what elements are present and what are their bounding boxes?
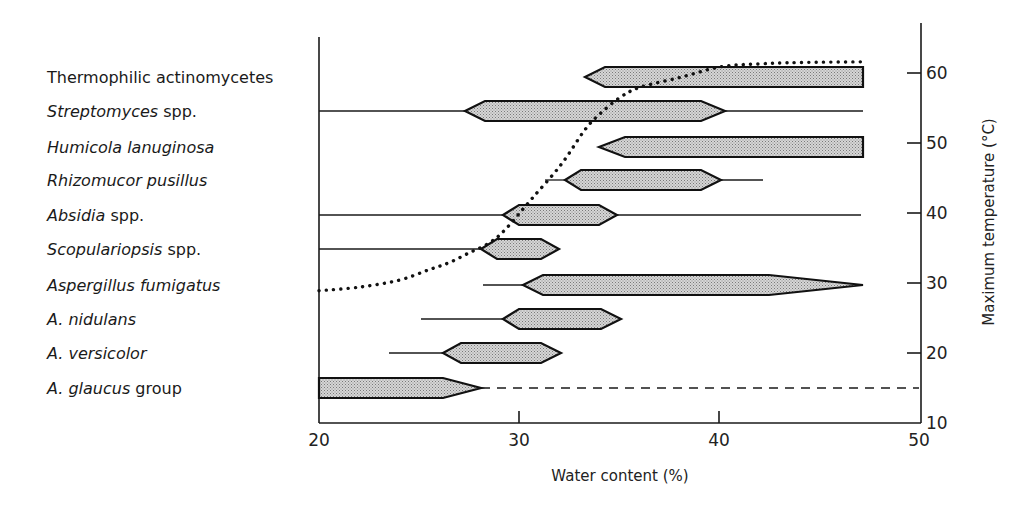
y-tick-label: 60 bbox=[926, 63, 948, 83]
category-label: A. versicolor bbox=[46, 344, 148, 363]
category-label: Absidia spp. bbox=[46, 206, 144, 225]
range-bar bbox=[523, 275, 863, 295]
category-label: A. glaucus group bbox=[46, 379, 182, 398]
y-tick-label: 10 bbox=[926, 413, 948, 433]
range-row bbox=[545, 170, 763, 190]
category-label: Rhizomucor pusillus bbox=[47, 171, 207, 190]
category-label: A. nidulans bbox=[46, 310, 136, 329]
category-label: Thermophilic actinomycetes bbox=[46, 68, 273, 87]
range-row bbox=[421, 309, 621, 329]
range-row bbox=[319, 101, 863, 121]
range-row bbox=[483, 275, 863, 295]
range-bar bbox=[599, 137, 863, 157]
range-row bbox=[319, 239, 559, 259]
range-row bbox=[319, 378, 919, 398]
range-bar bbox=[443, 343, 561, 363]
range-row bbox=[599, 137, 863, 157]
x-tick-label: 20 bbox=[308, 430, 330, 450]
category-labels: Thermophilic actinomycetesStreptomyces s… bbox=[46, 68, 273, 398]
x-tick-label: 30 bbox=[508, 430, 530, 450]
category-label: Scopulariopsis spp. bbox=[47, 240, 201, 259]
range-bar bbox=[503, 309, 621, 329]
y-tick-label: 30 bbox=[926, 273, 948, 293]
range-row bbox=[585, 67, 863, 87]
chart: 20304050 102030405060 Water content (%) … bbox=[0, 0, 1026, 511]
x-tick-label: 50 bbox=[908, 430, 930, 450]
y-tick-label: 50 bbox=[926, 133, 948, 153]
y-axis-ticks: 102030405060 bbox=[907, 63, 948, 433]
y-tick-label: 20 bbox=[926, 343, 948, 363]
category-label: Humicola lanuginosa bbox=[47, 138, 214, 157]
y-tick-label: 40 bbox=[926, 203, 948, 223]
range-bar bbox=[585, 67, 863, 87]
range-row bbox=[389, 343, 561, 363]
range-bars bbox=[319, 67, 919, 398]
category-label: Aspergillus fumigatus bbox=[46, 276, 220, 295]
range-bar bbox=[565, 170, 721, 190]
x-axis-title: Water content (%) bbox=[551, 467, 688, 485]
range-bar bbox=[503, 205, 617, 225]
category-label: Streptomyces spp. bbox=[47, 102, 197, 121]
y-axis-title-right: Maximum temperature (°C) bbox=[980, 118, 998, 325]
range-row bbox=[319, 205, 861, 225]
range-bar bbox=[319, 378, 481, 398]
x-tick-label: 40 bbox=[708, 430, 730, 450]
x-axis-ticks: 20304050 bbox=[308, 411, 930, 450]
